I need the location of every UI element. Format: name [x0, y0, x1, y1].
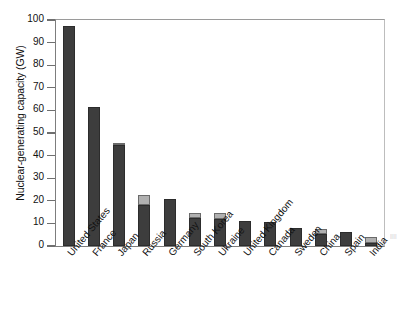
y-tick-mark [47, 132, 55, 133]
y-tick-mark [47, 42, 55, 43]
y-tick-label: 90 [4, 36, 44, 47]
y-tick-mark [47, 178, 55, 179]
bar-segment-under-construction [189, 213, 201, 218]
y-tick-mark [47, 155, 55, 156]
bar-sweden[interactable] [290, 20, 302, 246]
nuclear-capacity-bar-chart: Nuclear-generating capacity (GW) 1009080… [0, 0, 402, 330]
y-tick-label: 50 [4, 126, 44, 137]
bar-russia[interactable] [138, 20, 150, 246]
y-tick-mark [47, 200, 55, 201]
bar-united-kingdom[interactable] [239, 20, 251, 246]
y-tick-label: 70 [4, 81, 44, 92]
bar-south-korea[interactable] [189, 20, 201, 246]
bar-spain[interactable] [340, 20, 352, 246]
y-tick-label: 60 [4, 103, 44, 114]
y-tick-mark [47, 223, 55, 224]
bar-china[interactable] [315, 20, 327, 246]
y-tick-label: 40 [4, 149, 44, 160]
y-tick-mark [47, 87, 55, 88]
bar-segment-operating [63, 26, 75, 246]
bar-japan[interactable] [113, 20, 125, 246]
y-tick-label: 10 [4, 216, 44, 227]
y-tick-label: 100 [4, 13, 44, 24]
page-edge-cutoff-text: ||||| [390, 232, 402, 328]
bar-india[interactable] [365, 20, 377, 246]
y-tick-mark [47, 65, 55, 66]
y-tick-mark [47, 245, 55, 246]
bar-segment-operating [164, 199, 176, 246]
bar-segment-under-construction [138, 195, 150, 205]
y-tick-label: 30 [4, 171, 44, 182]
y-tick-mark [47, 110, 55, 111]
bar-united-states[interactable] [63, 20, 75, 246]
bar-germany[interactable] [164, 20, 176, 246]
y-tick-mark [47, 19, 55, 20]
y-tick-label: 80 [4, 58, 44, 69]
y-tick-label: 20 [4, 194, 44, 205]
y-tick-label: 0 [4, 239, 44, 250]
bar-segment-under-construction [113, 143, 125, 145]
